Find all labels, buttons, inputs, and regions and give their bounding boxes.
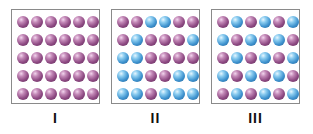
- purple-atom-icon: [87, 16, 99, 28]
- panel-iii-grid: [217, 15, 300, 105]
- blue-atom-icon: [273, 34, 285, 46]
- panel-iii-box: [211, 9, 300, 104]
- panel-ii-grid: [117, 15, 200, 105]
- purple-atom-icon: [17, 34, 29, 46]
- blue-atom-icon: [245, 34, 257, 46]
- panel-i-grid: [17, 15, 100, 105]
- purple-atom-icon: [187, 52, 199, 64]
- purple-atom-icon: [217, 16, 229, 28]
- purple-atom-icon: [59, 52, 71, 64]
- blue-atom-icon: [231, 52, 243, 64]
- blue-atom-icon: [245, 70, 257, 82]
- purple-atom-icon: [45, 88, 57, 100]
- blue-atom-icon: [173, 88, 185, 100]
- purple-atom-icon: [45, 34, 57, 46]
- blue-atom-icon: [117, 88, 129, 100]
- purple-atom-icon: [87, 52, 99, 64]
- blue-atom-icon: [259, 52, 271, 64]
- purple-atom-icon: [31, 34, 43, 46]
- purple-atom-icon: [245, 52, 257, 64]
- purple-atom-icon: [159, 52, 171, 64]
- purple-atom-icon: [217, 52, 229, 64]
- blue-atom-icon: [187, 88, 199, 100]
- panel-iii: [211, 9, 300, 104]
- purple-atom-icon: [87, 70, 99, 82]
- blue-atom-icon: [231, 88, 243, 100]
- purple-atom-icon: [73, 16, 85, 28]
- purple-atom-icon: [187, 16, 199, 28]
- blue-atom-icon: [131, 52, 143, 64]
- blue-atom-icon: [159, 88, 171, 100]
- blue-atom-icon: [217, 70, 229, 82]
- purple-atom-icon: [17, 16, 29, 28]
- purple-atom-icon: [117, 34, 129, 46]
- purple-atom-icon: [173, 16, 185, 28]
- blue-atom-icon: [231, 16, 243, 28]
- purple-atom-icon: [145, 70, 157, 82]
- panel-i-label: I: [11, 110, 100, 126]
- purple-atom-icon: [45, 70, 57, 82]
- purple-atom-icon: [145, 52, 157, 64]
- purple-atom-icon: [117, 16, 129, 28]
- blue-atom-icon: [131, 34, 143, 46]
- panel-ii-box: [111, 9, 200, 104]
- purple-atom-icon: [259, 70, 271, 82]
- purple-atom-icon: [31, 16, 43, 28]
- purple-atom-icon: [87, 88, 99, 100]
- purple-atom-icon: [173, 34, 185, 46]
- blue-atom-icon: [131, 88, 143, 100]
- blue-atom-icon: [187, 34, 199, 46]
- purple-atom-icon: [59, 70, 71, 82]
- purple-atom-icon: [259, 34, 271, 46]
- purple-atom-icon: [73, 34, 85, 46]
- blue-atom-icon: [259, 88, 271, 100]
- blue-atom-icon: [287, 88, 299, 100]
- purple-atom-icon: [287, 34, 299, 46]
- purple-atom-icon: [273, 16, 285, 28]
- purple-atom-icon: [17, 52, 29, 64]
- purple-atom-icon: [231, 70, 243, 82]
- purple-atom-icon: [131, 16, 143, 28]
- purple-atom-icon: [287, 70, 299, 82]
- blue-atom-icon: [173, 70, 185, 82]
- purple-atom-icon: [45, 16, 57, 28]
- purple-atom-icon: [17, 70, 29, 82]
- purple-atom-icon: [45, 52, 57, 64]
- panel-ii: [111, 9, 200, 104]
- purple-atom-icon: [59, 88, 71, 100]
- blue-atom-icon: [159, 16, 171, 28]
- purple-atom-icon: [245, 88, 257, 100]
- purple-atom-icon: [273, 52, 285, 64]
- purple-atom-icon: [173, 52, 185, 64]
- panel-i: [11, 9, 100, 104]
- panel-ii-label: II: [111, 110, 200, 126]
- blue-atom-icon: [273, 70, 285, 82]
- purple-atom-icon: [245, 16, 257, 28]
- purple-atom-icon: [159, 70, 171, 82]
- blue-atom-icon: [145, 16, 157, 28]
- purple-atom-icon: [217, 88, 229, 100]
- purple-atom-icon: [31, 88, 43, 100]
- purple-atom-icon: [73, 70, 85, 82]
- purple-atom-icon: [231, 34, 243, 46]
- blue-atom-icon: [187, 70, 199, 82]
- purple-atom-icon: [31, 70, 43, 82]
- purple-atom-icon: [273, 88, 285, 100]
- purple-atom-icon: [31, 52, 43, 64]
- blue-atom-icon: [117, 52, 129, 64]
- blue-atom-icon: [259, 16, 271, 28]
- purple-atom-icon: [159, 34, 171, 46]
- blue-atom-icon: [287, 16, 299, 28]
- purple-atom-icon: [73, 52, 85, 64]
- blue-atom-icon: [117, 70, 129, 82]
- purple-atom-icon: [59, 16, 71, 28]
- blue-atom-icon: [131, 70, 143, 82]
- purple-atom-icon: [87, 34, 99, 46]
- purple-atom-icon: [17, 88, 29, 100]
- panel-iii-label: III: [211, 110, 300, 126]
- purple-atom-icon: [145, 88, 157, 100]
- purple-atom-icon: [73, 88, 85, 100]
- purple-atom-icon: [145, 34, 157, 46]
- panel-i-box: [11, 9, 100, 104]
- blue-atom-icon: [217, 34, 229, 46]
